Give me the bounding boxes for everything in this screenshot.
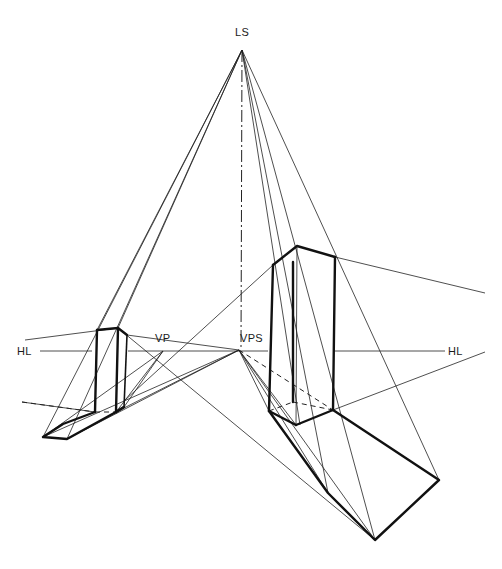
- left-prism-top-edge: [97, 328, 127, 335]
- label-vanishing-point-shadow: VPS: [240, 333, 263, 344]
- construction-line: [116, 351, 163, 412]
- construction-line: [242, 50, 328, 493]
- construction-line: [333, 352, 485, 410]
- label-horizon-line-right: HL: [448, 346, 463, 357]
- left-prism-vertical-edge: [124, 335, 127, 407]
- tall-shadow-outline: [269, 410, 439, 540]
- construction-line: [239, 350, 296, 425]
- left-prism-vertical-edge: [116, 328, 118, 412]
- left-prism-vertical-edge: [95, 330, 97, 412]
- perspective-shadow-diagram: [0, 0, 502, 569]
- label-horizon-line-left: HL: [17, 346, 32, 357]
- vertical-axis-line: [241, 50, 242, 350]
- construction-line: [124, 351, 163, 407]
- tall-prism-vertical-edge: [269, 265, 273, 411]
- tall-prism-vertical-edge: [296, 246, 297, 425]
- label-light-source: LS: [235, 27, 249, 38]
- construction-line: [118, 50, 242, 328]
- hidden-line: [239, 350, 333, 410]
- construction-lines: [22, 50, 485, 540]
- tall-prism-hidden-edge: [293, 402, 333, 410]
- construction-line: [335, 257, 485, 293]
- construction-line: [239, 350, 269, 411]
- construction-line: [97, 50, 242, 330]
- construction-line: [127, 335, 239, 350]
- construction-line: [43, 350, 239, 437]
- construction-line: [239, 350, 328, 493]
- tall-prism-vertical-edge: [333, 257, 335, 410]
- label-vanishing-point: VP: [155, 333, 170, 344]
- light-source-vertical-axis: [241, 50, 242, 350]
